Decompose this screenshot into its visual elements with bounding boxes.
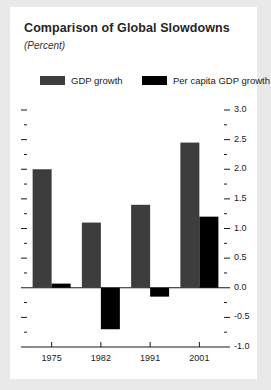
bar-per-capita-gdp-growth (150, 288, 169, 297)
bar-gdp-growth (180, 143, 199, 288)
y-axis-tick-label: 0.5 (234, 252, 264, 262)
bar-gdp-growth (82, 223, 101, 288)
x-axis-tick-label: 2001 (177, 353, 221, 363)
y-axis-tick-label: -0.5 (234, 311, 264, 321)
bar-gdp-growth (131, 205, 150, 288)
y-axis-tick-label: 1.5 (234, 193, 264, 203)
bar-gdp-growth (33, 169, 52, 288)
x-axis-tick-label: 1975 (30, 353, 74, 363)
y-axis-tick-label: -1.0 (234, 341, 264, 351)
bar-per-capita-gdp-growth (52, 284, 71, 288)
y-axis-tick-label: 3.0 (234, 104, 264, 114)
chart-figure: Comparison of Global Slowdowns (Percent)… (10, 7, 257, 379)
y-axis-tick-label: 1.0 (234, 223, 264, 233)
y-axis-tick-label: 0.0 (234, 282, 264, 292)
x-axis-tick-label: 1982 (79, 353, 123, 363)
bar-chart-plot (10, 7, 257, 379)
y-axis-tick-label: 2.5 (234, 134, 264, 144)
x-axis-tick-label: 1991 (128, 353, 172, 363)
bar-per-capita-gdp-growth (199, 217, 218, 288)
y-axis-tick-label: 2.0 (234, 163, 264, 173)
bar-per-capita-gdp-growth (101, 288, 120, 329)
